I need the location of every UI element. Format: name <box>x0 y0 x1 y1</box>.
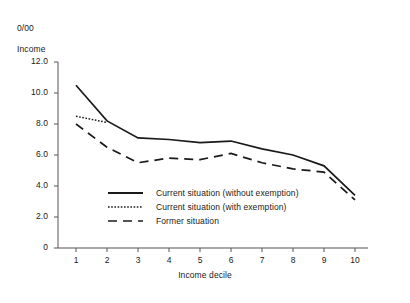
x-axis-tick-label: 2 <box>97 255 117 265</box>
legend-label-with-exemption: Current situation (with exemption) <box>156 202 286 212</box>
x-axis-tick-label: 3 <box>128 255 148 265</box>
x-axis-tick-label: 4 <box>159 255 179 265</box>
chart-legend: Current situation (without exemption) Cu… <box>108 186 299 228</box>
legend-item: Former situation <box>108 214 299 228</box>
series-line-solid <box>76 85 355 195</box>
x-axis-tick-label: 8 <box>283 255 303 265</box>
y-axis-tick-label: 12.0 <box>14 56 48 66</box>
legend-label-former-situation: Former situation <box>156 216 219 226</box>
legend-label-without-exemption: Current situation (without exemption) <box>156 188 299 198</box>
y-axis-tick-label: 4.0 <box>14 180 48 190</box>
legend-item: Current situation (with exemption) <box>108 200 299 214</box>
income-decile-line-chart: 0/00 Income 12.010.08.06.04.02.00 123456… <box>0 0 410 303</box>
legend-swatch-dashed-icon <box>108 216 143 226</box>
x-axis-tick-label: 6 <box>221 255 241 265</box>
x-axis-title: Income decile <box>0 270 410 280</box>
x-axis-ticks <box>76 248 355 252</box>
y-axis-tick-label: 8.0 <box>14 118 48 128</box>
y-axis-tick-label: 6.0 <box>14 149 48 159</box>
x-axis-tick-label: 9 <box>314 255 334 265</box>
legend-swatch-dotted-icon <box>108 202 143 212</box>
y-axis-tick-label: 0 <box>14 242 48 252</box>
data-series-layer <box>76 85 355 200</box>
y-axis-tick-label: 10.0 <box>14 87 48 97</box>
y-axis-ticks <box>54 62 58 248</box>
legend-swatch-solid-icon <box>108 188 143 198</box>
y-axis-tick-label: 2.0 <box>14 211 48 221</box>
x-axis-tick-label: 1 <box>66 255 86 265</box>
x-axis-tick-label: 5 <box>190 255 210 265</box>
x-axis-tick-label: 10 <box>345 255 365 265</box>
series-line-dotted <box>76 116 107 122</box>
x-axis-tick-label: 7 <box>252 255 272 265</box>
legend-item: Current situation (without exemption) <box>108 186 299 200</box>
